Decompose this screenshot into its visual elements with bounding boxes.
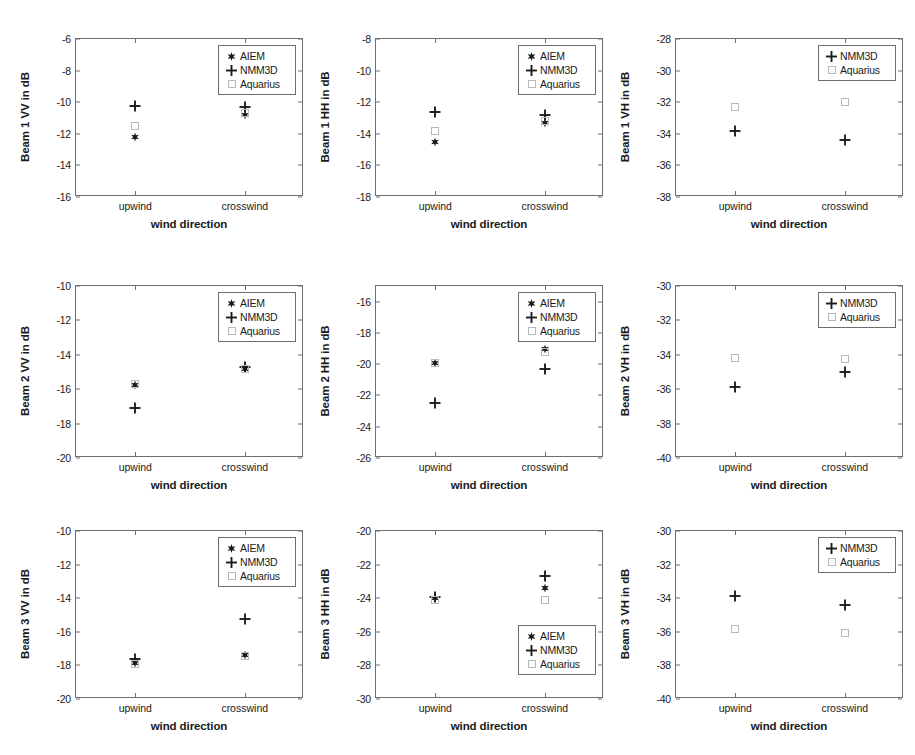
x-tick-mark [135,531,136,535]
y-tick-mark [676,354,680,355]
y-tick-mark [76,598,80,599]
subplot-8: -20-22-24-26-28-30upwindcrosswindAIEMNMM… [375,530,603,698]
y-tick-label: -20 [356,358,376,370]
open-square-marker [523,327,540,335]
y-tick-label: -30 [656,65,676,77]
x-tick-label: upwind [719,195,752,212]
legend-item: NMM3D [223,310,289,324]
plus-marker [430,398,441,409]
open-square-marker [131,660,139,668]
y-tick-label: -10 [56,525,76,537]
y-tick-label: -36 [656,159,676,171]
y-tick-mark [898,165,902,166]
subplot-9: -30-32-34-36-38-40upwindcrosswindNMM3DAq… [675,530,903,698]
x-tick-mark [435,286,436,290]
y-tick-label: -18 [356,191,376,203]
plus-marker [430,107,441,118]
plus-marker [839,135,850,146]
y-tick-label: -38 [656,659,676,671]
y-tick-mark [898,102,902,103]
y-axis-label: Beam 3 VH in dB [619,569,631,660]
plus-marker [539,571,550,582]
y-tick-mark [676,320,680,321]
x-tick-mark [245,286,246,290]
y-tick-mark [898,39,902,40]
y-tick-mark [598,598,602,599]
x-tick-label: crosswind [521,697,568,714]
y-tick-label: -32 [656,96,676,108]
y-tick-mark [898,389,902,390]
star-marker [223,52,240,61]
y-tick-label: -34 [656,128,676,140]
y-tick-label: -16 [56,383,76,395]
y-tick-label: -24 [356,421,376,433]
y-axis-label: Beam 2 VV in dB [19,326,31,416]
subplot-7: -10-12-14-16-18-20upwindcrosswindAIEMNMM… [75,530,303,698]
legend-item: AIEM [523,49,589,63]
x-tick-mark [545,286,546,290]
y-tick-label: -12 [56,559,76,571]
x-tick-label: upwind [119,456,152,473]
x-tick-label: crosswind [821,697,868,714]
y-tick-label: -14 [56,592,76,604]
y-tick-label: -26 [356,626,376,638]
x-tick-mark [845,286,846,290]
x-tick-mark [135,452,136,456]
y-tick-mark [676,458,680,459]
y-tick-mark [676,197,680,198]
x-tick-label: upwind [719,456,752,473]
y-tick-mark [298,631,302,632]
y-tick-label: -10 [56,96,76,108]
legend-label: AIEM [540,297,565,309]
open-square-marker [541,596,549,604]
subplot-3: -28-30-32-34-36-38upwindcrosswindNMM3DAq… [675,38,903,196]
y-tick-mark [676,70,680,71]
y-tick-mark [298,354,302,355]
y-tick-mark [676,286,680,287]
subplot-4: -10-12-14-16-18-20upwindcrosswindAIEMNMM… [75,285,303,457]
y-axis-label: Beam 2 HH in dB [319,325,331,416]
y-tick-label: -20 [56,693,76,705]
x-tick-mark [245,39,246,43]
y-tick-mark [298,458,302,459]
y-tick-mark [376,301,380,302]
plus-marker [730,590,741,601]
x-axis-label: wind direction [151,479,228,491]
y-tick-label: -30 [656,280,676,292]
plus-marker [539,363,550,374]
y-tick-mark [598,631,602,632]
x-tick-mark [735,452,736,456]
y-tick-mark [298,564,302,565]
legend-item: NMM3D [223,63,289,77]
plus-marker [239,614,250,625]
y-tick-mark [76,39,80,40]
legend: NMM3DAquarius [818,537,896,573]
x-tick-mark [135,286,136,290]
y-tick-mark [376,458,380,459]
y-tick-mark [376,631,380,632]
y-tick-mark [376,665,380,666]
open-square-marker [841,98,849,106]
y-tick-mark [298,102,302,103]
y-tick-label: -16 [356,296,376,308]
legend: AIEMNMM3DAquarius [218,45,296,95]
y-tick-mark [76,133,80,134]
x-tick-mark [435,39,436,43]
x-tick-mark [545,39,546,43]
y-tick-mark [598,699,602,700]
legend-item: Aquarius [523,77,589,91]
legend-label: Aquarius [840,311,880,323]
y-tick-mark [598,197,602,198]
legend-item: AIEM [523,629,589,643]
y-tick-mark [76,665,80,666]
open-square-marker [731,103,739,111]
y-tick-label: -18 [56,659,76,671]
plus-marker [130,403,141,414]
x-tick-mark [545,693,546,697]
y-tick-mark [76,165,80,166]
star-marker [523,52,540,61]
y-tick-label: -30 [656,525,676,537]
y-tick-mark [676,631,680,632]
y-tick-mark [898,354,902,355]
plus-marker [523,65,540,76]
